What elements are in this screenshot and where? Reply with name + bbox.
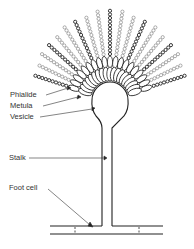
spore [166, 80, 169, 83]
spore [61, 75, 64, 78]
spore [142, 23, 145, 26]
spore [130, 23, 133, 26]
spore [70, 52, 73, 55]
spore [169, 44, 172, 47]
spore [152, 47, 155, 50]
spore [51, 70, 54, 73]
spore [145, 55, 148, 58]
spore [156, 41, 159, 44]
spore [154, 44, 157, 47]
spore [127, 33, 130, 36]
spore [135, 56, 138, 59]
spore [140, 60, 143, 63]
spore [102, 49, 105, 52]
spore [65, 84, 68, 87]
spore [64, 69, 67, 72]
spore [140, 27, 143, 30]
spore [72, 55, 75, 58]
spore [152, 84, 155, 87]
diagram-artwork [0, 0, 194, 249]
spore [117, 39, 120, 42]
spore [101, 46, 104, 49]
spore [77, 27, 80, 30]
spore [37, 75, 40, 78]
spore [64, 77, 67, 80]
spore [108, 24, 111, 27]
spore [180, 75, 183, 78]
spore [152, 29, 155, 32]
spore [137, 53, 140, 56]
spore [126, 37, 129, 40]
spore [74, 20, 77, 23]
spore [67, 32, 70, 35]
spore [138, 63, 141, 66]
spore [143, 20, 146, 23]
spore [54, 72, 57, 75]
spore [124, 44, 127, 47]
spore [85, 47, 88, 50]
spore [88, 27, 91, 30]
spore [129, 27, 132, 30]
spore [85, 16, 88, 19]
spore [117, 35, 120, 38]
foot-cell [50, 226, 163, 234]
spore [51, 80, 54, 83]
spore [150, 78, 153, 81]
spore [74, 58, 77, 61]
vesicle [92, 82, 128, 160]
spore [108, 13, 111, 16]
spore [169, 79, 172, 82]
spore [129, 53, 132, 56]
spore [43, 55, 46, 58]
spore [163, 72, 166, 75]
spore [183, 74, 186, 77]
spore [176, 53, 179, 56]
spore [90, 56, 93, 59]
spore [150, 32, 153, 35]
spore [115, 53, 118, 56]
spore [108, 20, 111, 23]
spore [34, 74, 37, 77]
spore [119, 21, 122, 24]
spore [41, 66, 44, 69]
spore [98, 24, 101, 27]
spore [176, 76, 179, 79]
spore [95, 51, 98, 54]
spore [108, 45, 111, 48]
spore [133, 59, 136, 62]
spore [123, 47, 126, 50]
label-vesicle: Vesicle [10, 113, 34, 121]
spore [179, 64, 182, 67]
spore [94, 47, 97, 50]
spore [76, 47, 79, 50]
spore [172, 67, 175, 70]
spore [173, 55, 176, 58]
spore [87, 50, 90, 53]
spore [86, 20, 89, 23]
spore [97, 21, 100, 24]
spore [108, 9, 111, 12]
spore [78, 30, 81, 33]
phialide [107, 56, 112, 68]
spore [143, 58, 146, 61]
spore [96, 54, 99, 57]
spore [71, 38, 74, 41]
spore [121, 54, 124, 57]
spore [167, 59, 170, 62]
spore [81, 37, 84, 40]
spore [52, 61, 55, 64]
spore [134, 40, 137, 43]
spore [159, 82, 162, 85]
spore [41, 76, 44, 79]
spore [132, 16, 135, 19]
spore [108, 16, 111, 19]
spore [120, 14, 123, 17]
spore [159, 74, 162, 77]
spore [153, 69, 156, 72]
spore [60, 41, 63, 44]
spore [108, 42, 111, 45]
spore [65, 29, 68, 32]
spore [169, 69, 172, 72]
spore [161, 63, 164, 66]
spore [92, 40, 95, 43]
